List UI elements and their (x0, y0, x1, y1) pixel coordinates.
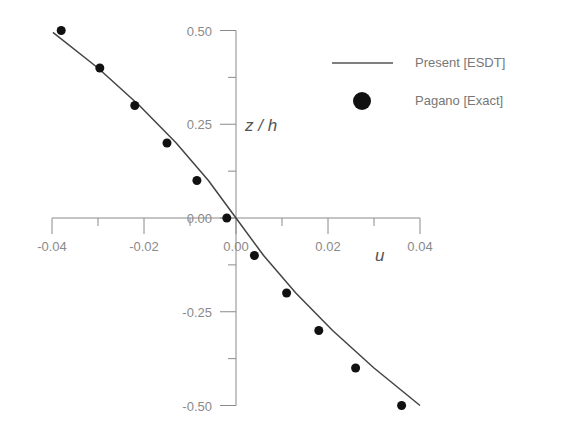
y-tick-label: 0.50 (187, 24, 212, 39)
pagano-data-point (222, 214, 231, 223)
pagano-data-point (192, 176, 201, 185)
pagano-data-point (282, 289, 291, 298)
x-tick-label: -0.04 (37, 239, 67, 254)
pagano-data-point (397, 401, 406, 410)
pagano-data-point (163, 139, 172, 148)
x-tick-label: 0.02 (315, 239, 340, 254)
x-axis-label: u (375, 246, 385, 265)
pagano-data-point (95, 64, 104, 73)
y-tick-label: -0.25 (182, 305, 212, 320)
legend: Present [ESDT] Pagano [Exact] (332, 55, 505, 110)
pagano-data-point (351, 364, 360, 373)
x-tick-label: 0.00 (223, 239, 248, 254)
y-axis-label: z / h (244, 116, 277, 135)
y-tick-label: -0.50 (182, 399, 212, 414)
y-tick-label: 0.25 (187, 117, 212, 132)
legend-marker-swatch (353, 92, 371, 110)
pagano-data-point (250, 251, 259, 260)
legend-label-pagano: Pagano [Exact] (415, 93, 503, 108)
legend-label-present: Present [ESDT] (415, 55, 505, 70)
pagano-data-point (57, 26, 66, 35)
y-tick-label: 0.00 (187, 211, 212, 226)
pagano-data-point (130, 101, 139, 110)
x-tick-label: 0.04 (407, 239, 432, 254)
x-tick-label: -0.02 (129, 239, 159, 254)
pagano-data-point (314, 326, 323, 335)
chart: -0.04-0.020.000.020.040.500.250.00-0.25-… (0, 0, 569, 434)
